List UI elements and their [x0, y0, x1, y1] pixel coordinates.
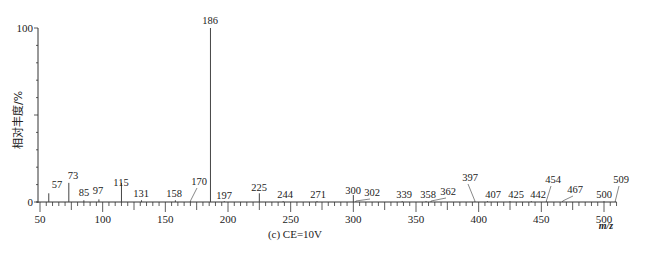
peak-label-170: 170 — [191, 176, 207, 187]
chart-canvas: 010050100150200250300350400450500 577385… — [0, 0, 650, 258]
peak-label-467: 467 — [567, 184, 583, 195]
x-axis-label: m/z — [599, 220, 614, 231]
peak-label-500: 500 — [596, 189, 612, 200]
peak-label-454: 454 — [545, 174, 562, 185]
leader-line — [563, 196, 573, 201]
peak-label-115: 115 — [113, 177, 128, 188]
leader-line — [546, 186, 551, 201]
peak-label-509: 509 — [613, 174, 629, 185]
leader-line — [356, 199, 370, 201]
peak-labels: 5773859711513115817018619722524427130030… — [52, 15, 629, 201]
y-tick-label: 0 — [28, 196, 34, 208]
x-tick-label: 300 — [345, 213, 362, 225]
peak-label-407: 407 — [485, 189, 501, 200]
x-tick-label: 250 — [282, 213, 299, 225]
peak-label-225: 225 — [251, 182, 267, 193]
peak-label-302: 302 — [364, 187, 380, 198]
peaks — [49, 28, 616, 202]
peak-label-300: 300 — [345, 185, 361, 196]
y-tick-label: 100 — [17, 22, 34, 34]
peak-label-397: 397 — [462, 172, 478, 183]
peak-label-97: 97 — [93, 185, 104, 196]
x-tick-label: 400 — [470, 213, 487, 225]
peak-label-425: 425 — [508, 189, 524, 200]
leader-line — [615, 186, 619, 201]
y-axis-label: 相对丰度/% — [11, 91, 25, 149]
peak-label-186: 186 — [202, 15, 218, 26]
x-tick-label: 450 — [533, 213, 550, 225]
peak-label-85: 85 — [79, 187, 90, 198]
peak-label-197: 197 — [216, 190, 232, 201]
peak-label-362: 362 — [440, 186, 456, 197]
leader-line — [190, 188, 197, 201]
peak-label-442: 442 — [530, 189, 546, 200]
peak-label-57: 57 — [52, 179, 63, 190]
leader-line — [468, 184, 475, 201]
peak-label-73: 73 — [68, 170, 79, 181]
peak-label-158: 158 — [166, 188, 182, 199]
peak-label-358: 358 — [420, 189, 436, 200]
peak-label-339: 339 — [396, 189, 412, 200]
mass-spectrum-chart: 010050100150200250300350400450500 577385… — [0, 0, 650, 258]
chart-caption: (c) CE=10V — [268, 228, 322, 241]
x-tick-label: 350 — [408, 213, 425, 225]
x-tick-label: 200 — [220, 213, 237, 225]
peak-label-244: 244 — [277, 189, 294, 200]
peak-label-271: 271 — [310, 189, 326, 200]
x-tick-label: 150 — [157, 213, 174, 225]
peak-label-131: 131 — [133, 188, 149, 199]
x-tick-label: 50 — [35, 213, 47, 225]
x-tick-label: 100 — [94, 213, 111, 225]
